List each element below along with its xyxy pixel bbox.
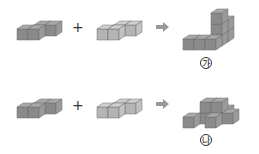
cube-figures-canvas (0, 0, 259, 154)
row1-piece-b (97, 21, 142, 40)
cube-front-face (205, 117, 216, 128)
cube-front-face (28, 107, 39, 118)
cube-front-face (222, 113, 233, 124)
cube-front-face (200, 102, 211, 113)
cube-front-face (211, 24, 222, 35)
cube (45, 21, 62, 36)
diagram-stage: + 가 + 나 (0, 0, 259, 154)
plus-sign-row2: + (72, 98, 84, 112)
cube (183, 113, 200, 128)
cube (125, 99, 142, 114)
cube (211, 9, 228, 24)
cube-front-face (211, 102, 222, 113)
cube (205, 113, 222, 128)
arrow-right-icon-row1 (156, 22, 170, 32)
cube-front-face (45, 103, 56, 114)
cube-front-face (183, 117, 194, 128)
result-label-ga: 가 (200, 57, 212, 69)
cube (205, 35, 222, 50)
cube-front-face (17, 29, 28, 40)
cube (125, 21, 142, 36)
cube (108, 103, 125, 118)
plus-sign-row1: + (72, 20, 84, 34)
cube-front-face (211, 13, 222, 24)
cube-front-face (97, 29, 108, 40)
cube-front-face (183, 39, 194, 50)
cube-front-face (205, 39, 216, 50)
cube-front-face (108, 29, 119, 40)
result-label-na: 나 (200, 134, 212, 146)
arrow-right-icon-row2 (156, 99, 170, 109)
row1-piece-a (17, 21, 62, 40)
cube (45, 99, 62, 114)
cube-front-face (97, 107, 108, 118)
row2-piece-b (97, 99, 142, 118)
cube-front-face (17, 107, 28, 118)
cube (108, 25, 125, 40)
cube (28, 103, 45, 118)
cube-front-face (194, 39, 205, 50)
cube-front-face (45, 25, 56, 36)
row2-piece-a (17, 99, 62, 118)
cube-front-face (125, 103, 136, 114)
cube-front-face (125, 25, 136, 36)
cube-front-face (28, 29, 39, 40)
cube (211, 98, 228, 113)
row2-result-na (183, 98, 239, 128)
row1-result-ga (183, 9, 234, 50)
cube (28, 25, 45, 40)
cube-front-face (108, 107, 119, 118)
